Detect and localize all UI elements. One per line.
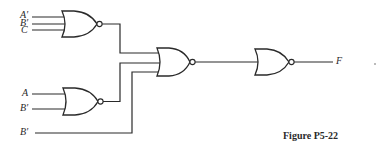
nor-gate-4-bubble: [289, 59, 294, 64]
nor-gate-3: [157, 48, 190, 76]
nor-gate-2: [63, 88, 98, 115]
nor-gate-1: [62, 11, 97, 37]
label-gate2-b-prime: B′: [20, 103, 28, 113]
label-direct-b-prime: B′: [20, 127, 28, 137]
label-gate2-a: A: [22, 88, 28, 98]
figure-caption: Figure P5-22: [283, 131, 338, 141]
scan-artifact: [374, 63, 376, 65]
wire-gate1-output: [102, 24, 161, 53]
logic-circuit-diagram: [0, 0, 388, 149]
nor-gate-4: [255, 49, 289, 75]
nor-gate-1-bubble: [97, 21, 102, 26]
nor-gate-3-bubble: [190, 59, 195, 64]
nor-gate-2-bubble: [98, 99, 103, 104]
label-output-f: F: [336, 56, 342, 66]
label-gate1-c: C: [21, 25, 28, 35]
